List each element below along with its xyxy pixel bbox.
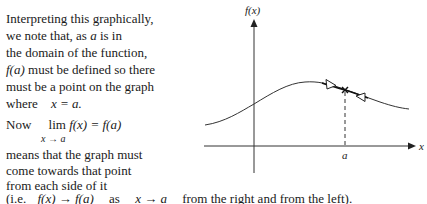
point-a-label: a [342, 149, 348, 161]
x-axis-label: x [418, 140, 424, 152]
y-axis-arrow-icon [251, 19, 258, 27]
y-axis-label: f(x) [245, 4, 261, 17]
function-curve [205, 82, 409, 125]
x-axis-arrow-icon [408, 143, 416, 150]
function-graph: f(x) x a [0, 0, 427, 204]
